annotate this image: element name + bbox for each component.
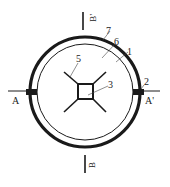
callout-7: 7 xyxy=(106,25,111,36)
arm-top-left xyxy=(64,72,78,84)
right-connector-block xyxy=(133,89,144,95)
callout-5: 5 xyxy=(76,53,81,64)
left-connector-block xyxy=(26,89,37,95)
section-mark-top: B' xyxy=(88,14,98,22)
callout-3: 3 xyxy=(108,79,113,90)
section-mark-left: A xyxy=(12,95,20,106)
callout-2: 2 xyxy=(144,76,149,87)
central-square xyxy=(78,84,93,99)
section-mark-right: A' xyxy=(145,95,154,106)
outer-ring xyxy=(30,37,140,147)
diagram-canvas: 7 6 1 5 3 2 A A' B' B xyxy=(0,0,170,187)
arm-bottom-left xyxy=(64,99,78,112)
leader-5 xyxy=(70,63,78,77)
callout-6: 6 xyxy=(114,36,119,47)
section-mark-bottom: B xyxy=(87,162,97,168)
arm-top-right xyxy=(93,72,106,84)
callout-1: 1 xyxy=(127,46,132,57)
leader-3 xyxy=(88,86,108,95)
inner-ring xyxy=(37,44,133,140)
arm-bottom-right xyxy=(93,99,106,112)
